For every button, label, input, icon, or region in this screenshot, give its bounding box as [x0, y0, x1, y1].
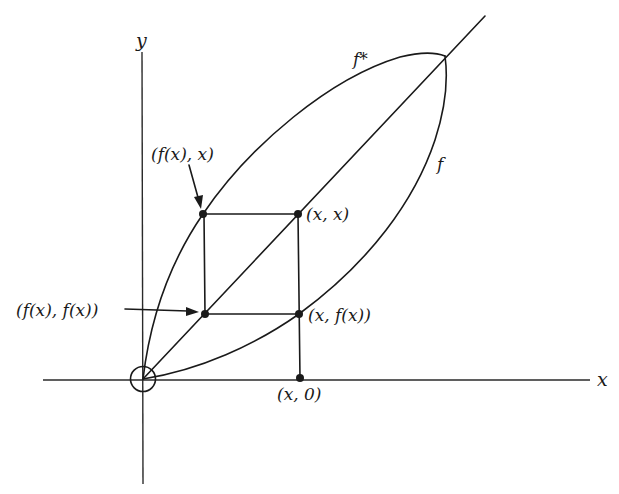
point-x-x: [294, 210, 302, 218]
arrow-line-fx-x: [189, 165, 199, 201]
point-x-fx: [295, 310, 303, 318]
arrow-head-icon: [194, 195, 203, 209]
inverse-function-diagram: y x f* f (f(x), x) (x, x) (f(x), f(x)) (…: [0, 0, 619, 494]
label-x-x: (x, x): [306, 204, 349, 224]
label-x-fx: (x, f(x)): [308, 305, 371, 325]
left-vertical-line: [204, 214, 205, 314]
f-label: f: [435, 154, 446, 174]
point-fx-fx: [201, 310, 209, 318]
arrow-line-fx-fx: [125, 309, 188, 311]
right-vertical-line: [298, 214, 300, 378]
point-fx-x: [199, 210, 207, 218]
label-x-0: (x, 0): [277, 384, 321, 404]
label-fx-x: (f(x), x): [151, 144, 214, 164]
x-axis-label: x: [597, 368, 608, 390]
label-fx-fx: (f(x), f(x)): [16, 300, 98, 320]
y-axis-label: y: [135, 29, 147, 51]
arrow-head-icon: [186, 307, 199, 316]
point-x-0: [296, 374, 304, 382]
f-star-label: f*: [351, 49, 368, 69]
y-axis: [142, 52, 143, 484]
